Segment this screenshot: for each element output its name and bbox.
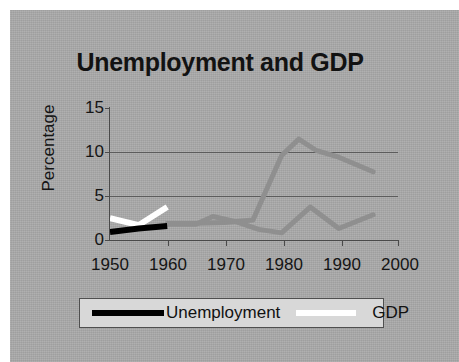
y-tick-label-10: 10 bbox=[62, 142, 104, 162]
legend-item-unemployment[interactable]: Unemployment bbox=[80, 299, 280, 327]
x-axis-tick-labels: 1950 1960 1970 1980 1990 2000 bbox=[10, 255, 459, 279]
chart-area: Unemployment and GDP Percentage 15 10 5 … bbox=[10, 10, 459, 362]
line-series-gray-lower bbox=[167, 207, 373, 233]
y-tick-label-5: 5 bbox=[62, 186, 104, 206]
x-tick-label-1950: 1950 bbox=[80, 255, 140, 275]
legend-swatch-unemployment bbox=[92, 310, 164, 316]
x-tick-mark-2000 bbox=[398, 241, 399, 246]
y-tick-mark-0 bbox=[105, 240, 110, 241]
line-series-gray-upper bbox=[167, 139, 373, 223]
y-axis-title: Percentage bbox=[39, 73, 59, 223]
y-tick-label-15: 15 bbox=[62, 98, 104, 118]
x-tick-mark-1980 bbox=[284, 241, 285, 246]
legend-label-gdp: GDP bbox=[372, 303, 409, 323]
legend-item-gdp[interactable]: GDP bbox=[280, 299, 409, 327]
plot-lines bbox=[110, 108, 398, 240]
x-tick-mark-1990 bbox=[342, 241, 343, 246]
legend-swatch-gdp bbox=[296, 310, 356, 316]
x-tick-mark-1970 bbox=[226, 241, 227, 246]
figure: Unemployment and GDP Percentage 15 10 5 … bbox=[0, 0, 459, 362]
legend-label-unemployment: Unemployment bbox=[166, 303, 280, 323]
x-tick-label-1980: 1980 bbox=[254, 255, 314, 275]
y-tick-label-0: 0 bbox=[62, 230, 104, 250]
chart-legend: Unemployment GDP bbox=[79, 298, 384, 328]
line-series-unemployment bbox=[110, 226, 167, 232]
x-tick-mark-1960 bbox=[168, 241, 169, 246]
x-axis-line bbox=[109, 240, 399, 241]
x-tick-label-1990: 1990 bbox=[312, 255, 372, 275]
x-tick-label-1960: 1960 bbox=[138, 255, 198, 275]
line-series-gdp bbox=[110, 207, 167, 225]
x-tick-label-1970: 1970 bbox=[196, 255, 256, 275]
x-tick-label-2000: 2000 bbox=[370, 255, 430, 275]
